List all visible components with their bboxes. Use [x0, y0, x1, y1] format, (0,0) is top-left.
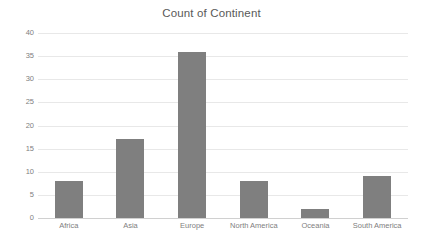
bar[interactable]	[240, 181, 268, 218]
y-axis-tick-label: 35	[0, 52, 34, 60]
x-axis-tick-label: North America	[230, 222, 278, 230]
chart-title: Count of Continent	[0, 7, 423, 19]
bar-slot	[346, 33, 408, 218]
x-axis-tick-label: South America	[353, 222, 402, 230]
bar[interactable]	[178, 52, 206, 219]
bar[interactable]	[116, 139, 144, 218]
x-axis-tick-label: Europe	[180, 222, 204, 230]
bar[interactable]	[363, 176, 391, 218]
y-axis-tick-label: 10	[0, 168, 34, 176]
y-axis-tick-label: 25	[0, 99, 34, 107]
y-axis: 4035302520151050	[0, 33, 34, 218]
bar-slot	[285, 33, 347, 218]
x-axis-tick-label: Africa	[59, 222, 78, 230]
y-axis-tick-label: 40	[0, 29, 34, 37]
x-axis-tick-label: Asia	[123, 222, 138, 230]
axis-baseline	[38, 218, 408, 219]
y-axis-tick-label: 5	[0, 191, 34, 199]
bar-chart: Count of Continent 4035302520151050 Afri…	[0, 0, 423, 248]
bar-slot	[223, 33, 285, 218]
bar-slot	[100, 33, 162, 218]
y-axis-tick-label: 30	[0, 76, 34, 84]
y-axis-tick-label: 15	[0, 145, 34, 153]
y-axis-tick-label: 0	[0, 214, 34, 222]
x-axis-tick-label: Oceania	[302, 222, 330, 230]
bar-slot	[161, 33, 223, 218]
y-axis-tick-label: 20	[0, 122, 34, 130]
bars-layer	[38, 33, 408, 218]
bar-slot	[38, 33, 100, 218]
bar[interactable]	[301, 209, 329, 218]
bar[interactable]	[55, 181, 83, 218]
x-axis: AfricaAsiaEuropeNorth AmericaOceaniaSout…	[38, 222, 408, 242]
